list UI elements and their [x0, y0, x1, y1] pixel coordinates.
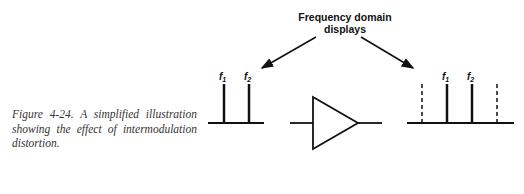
diagram: Frequency domain displays f1 f2 f1 f2: [0, 0, 524, 194]
heading-line-1: Frequency domain: [298, 11, 391, 23]
arrow-left: [262, 37, 316, 68]
heading-line-2: displays: [324, 23, 366, 35]
label-f2-output: f2: [467, 71, 474, 83]
label-f2-input: f2: [244, 71, 251, 83]
amplifier-icon: [290, 97, 382, 149]
input-spectrum: f1 f2: [208, 71, 264, 123]
label-f1-input: f1: [219, 71, 226, 83]
arrow-right: [361, 37, 413, 68]
label-f1-output: f1: [442, 71, 449, 83]
output-spectrum: f1 f2: [407, 71, 514, 123]
